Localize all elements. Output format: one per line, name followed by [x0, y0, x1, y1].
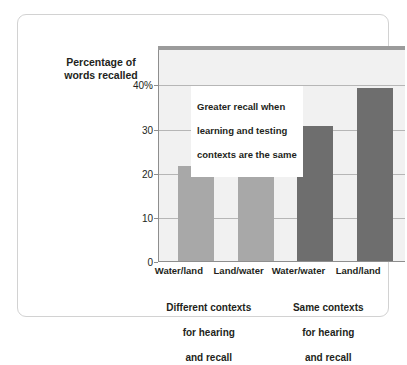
- bar-water-land: [178, 166, 214, 261]
- y-tick-label-30: 30: [142, 124, 153, 135]
- group-caption-different-contexts: Different contexts for hearing and recal…: [149, 289, 269, 365]
- group-caption-1-line-3: and recall: [268, 352, 388, 365]
- y-tick-mark-40: [154, 85, 158, 86]
- y-tick-mark-10: [154, 218, 158, 219]
- plot-area: 0 10 20 30 40% Greater recall when learn…: [158, 46, 405, 262]
- y-tick-label-20: 20: [142, 168, 153, 179]
- callout-line-2: learning and testing: [197, 125, 297, 137]
- group-caption-1-line-2: for hearing: [268, 327, 388, 340]
- callout-line-1: Greater recall when: [197, 101, 297, 113]
- group-caption-same-contexts: Same contexts for hearing and recall: [268, 289, 388, 365]
- callout-line-3: contexts are the same: [197, 149, 297, 161]
- x-tick-label-land-land: Land/land: [318, 265, 398, 276]
- y-tick-label-10: 10: [142, 212, 153, 223]
- y-tick-mark-30: [154, 130, 158, 131]
- y-axis-line: [158, 50, 159, 262]
- group-caption-0-line-1: Different contexts: [149, 302, 269, 315]
- x-axis-baseline: [158, 261, 405, 262]
- figure-frame: Percentage of words recalled 0 10 20 30 …: [17, 14, 389, 317]
- y-axis-title: Percentage of words recalled: [49, 56, 153, 82]
- y-axis-title-line-1: Percentage of: [49, 56, 153, 69]
- group-caption-1-line-1: Same contexts: [268, 302, 388, 315]
- bar-land-land: [357, 88, 393, 261]
- plot-inner: 0 10 20 30 40% Greater recall when learn…: [158, 50, 405, 262]
- y-tick-label-40: 40%: [133, 80, 153, 91]
- callout-annotation: Greater recall when learning and testing…: [191, 86, 303, 177]
- group-caption-0-line-3: and recall: [149, 352, 269, 365]
- group-caption-0-line-2: for hearing: [149, 327, 269, 340]
- y-tick-mark-20: [154, 174, 158, 175]
- bar-land-water: [238, 170, 274, 261]
- y-tick-mark-0: [154, 262, 158, 263]
